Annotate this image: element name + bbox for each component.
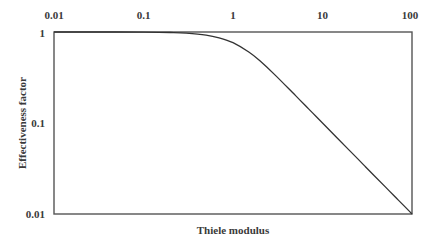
- y-tick-label: 0.01: [26, 208, 45, 220]
- x-tick-label: 0.01: [44, 9, 63, 21]
- x-axis-label: Thiele modulus: [197, 224, 270, 236]
- x-tick-label: 0.1: [137, 9, 151, 21]
- x-tick-label: 100: [402, 9, 419, 21]
- y-tick-label: 1: [40, 27, 46, 39]
- y-tick-label: 0.1: [31, 117, 45, 129]
- data-line: [54, 32, 412, 214]
- x-tick-label: 10: [317, 9, 329, 21]
- y-axis-label: Effectiveness factor: [16, 77, 28, 169]
- x-tick-label: 1: [230, 9, 236, 21]
- chart: 0.01 0.1 1 10 100 1 0.1 0.01 Thiele modu…: [0, 0, 436, 243]
- plot-frame: [54, 32, 412, 214]
